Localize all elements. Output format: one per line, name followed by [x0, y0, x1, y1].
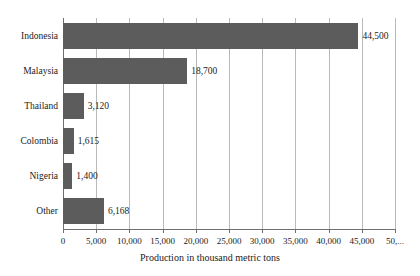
x-tick-mark — [329, 229, 330, 233]
category-label: Colombia — [2, 136, 58, 146]
x-tick-label: 20,000 — [183, 236, 208, 246]
bar-row: 1,400 — [63, 163, 395, 189]
x-tick-label: 40,000 — [316, 236, 341, 246]
bar-value-label: 44,500 — [358, 31, 388, 41]
bar[interactable] — [63, 163, 72, 189]
x-tick-mark — [395, 229, 396, 233]
x-tick-label: 50,... — [386, 236, 404, 246]
bar-value-label: 1,400 — [72, 171, 97, 181]
category-label: Thailand — [2, 101, 58, 111]
bar-row: 6,168 — [63, 198, 395, 224]
gridline — [262, 18, 263, 229]
x-tick-mark — [262, 229, 263, 233]
bar-value-label: 3,120 — [84, 101, 109, 111]
bar[interactable] — [63, 23, 358, 49]
bar[interactable] — [63, 198, 104, 224]
x-tick-mark — [362, 229, 363, 233]
plot-area: 44,50018,7003,1201,6151,4006,168 — [63, 18, 395, 229]
gridline — [295, 18, 296, 229]
gridline — [163, 18, 164, 229]
x-tick-label: 5,000 — [86, 236, 106, 246]
x-tick-label: 25,000 — [217, 236, 242, 246]
x-tick-mark — [63, 229, 64, 233]
x-tick-label: 30,000 — [250, 236, 275, 246]
x-tick-mark — [129, 229, 130, 233]
gridline — [229, 18, 230, 229]
gridline — [63, 18, 64, 229]
gridline — [395, 18, 396, 229]
x-tick-mark — [295, 229, 296, 233]
category-axis-labels: IndonesiaMalaysiaThailandColombiaNigeria… — [0, 18, 58, 229]
bar-row: 3,120 — [63, 93, 395, 119]
x-axis-title: Production in thousand metric tons — [0, 252, 420, 263]
bar-row: 44,500 — [63, 23, 395, 49]
bar[interactable] — [63, 93, 84, 119]
x-tick-label: 35,000 — [283, 236, 308, 246]
gridline — [196, 18, 197, 229]
gridline — [329, 18, 330, 229]
x-tick-mark — [229, 229, 230, 233]
bar-row: 1,615 — [63, 128, 395, 154]
bar-value-label: 6,168 — [104, 206, 129, 216]
bar-value-label: 18,700 — [187, 66, 217, 76]
gridline — [362, 18, 363, 229]
x-tick-mark — [196, 229, 197, 233]
gridline — [129, 18, 130, 229]
bar[interactable] — [63, 58, 187, 84]
category-label: Malaysia — [2, 66, 58, 76]
bar-row: 18,700 — [63, 58, 395, 84]
bar[interactable] — [63, 128, 74, 154]
bar-chart: 44,50018,7003,1201,6151,4006,168 Indones… — [0, 0, 420, 276]
gridline — [96, 18, 97, 229]
x-tick-mark — [96, 229, 97, 233]
category-label: Nigeria — [2, 171, 58, 181]
x-tick-label: 0 — [61, 236, 66, 246]
x-tick-label: 15,000 — [150, 236, 175, 246]
bar-value-label: 1,615 — [74, 136, 99, 146]
category-label: Indonesia — [2, 31, 58, 41]
x-tick-label: 45,000 — [349, 236, 374, 246]
category-label: Other — [2, 206, 58, 216]
x-tick-label: 10,000 — [117, 236, 142, 246]
x-tick-mark — [163, 229, 164, 233]
